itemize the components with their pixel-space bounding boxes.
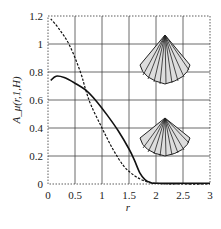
x-tick-label: 2.5 (176, 189, 190, 201)
y-tick-label: 0.6 (29, 94, 43, 106)
x-tick-label: 0 (45, 189, 51, 201)
dashed-curve (51, 19, 210, 184)
y-tick-label: 0.2 (29, 150, 43, 162)
x-tick-label: 1 (99, 189, 105, 201)
y-tick-label: 0 (38, 178, 44, 190)
cone-icon-lower (140, 118, 190, 156)
series (51, 19, 210, 184)
x-axis-label: r (126, 201, 131, 213)
solid-curve (51, 76, 210, 183)
x-tick-label: 1.5 (122, 189, 136, 201)
y-axis-label: A_μ(r,1,H) (10, 76, 23, 124)
x-tick-label: 2 (153, 189, 159, 201)
x-tick-label: 3 (207, 189, 213, 201)
y-tick-label: 1 (38, 38, 44, 50)
y-tick-label: 0.8 (29, 66, 43, 78)
x-tick-label: 0.5 (68, 189, 82, 201)
cone-icon-upper (140, 35, 190, 84)
y-tick-label: 0.4 (29, 122, 43, 134)
chart: 00.511.522.53 00.20.40.60.811.2 r A_μ(r,… (0, 0, 221, 229)
y-tick-label: 1.2 (29, 10, 43, 22)
x-tick-labels: 00.511.522.53 (45, 189, 213, 201)
y-tick-labels: 00.20.40.60.811.2 (29, 10, 43, 190)
grid (48, 16, 210, 184)
